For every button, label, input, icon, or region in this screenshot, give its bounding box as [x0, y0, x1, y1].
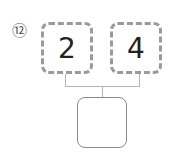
- connector-left-vertical: [65, 74, 66, 86]
- problem-number: ⑫: [12, 23, 27, 39]
- number-box-left-value: 2: [58, 32, 76, 65]
- number-box-left: 2: [41, 22, 93, 74]
- answer-box[interactable]: [77, 97, 127, 148]
- connector-right-vertical: [139, 74, 140, 86]
- number-box-right: 4: [110, 22, 162, 74]
- connector-center-vertical: [102, 86, 103, 97]
- number-box-right-value: 4: [127, 32, 145, 65]
